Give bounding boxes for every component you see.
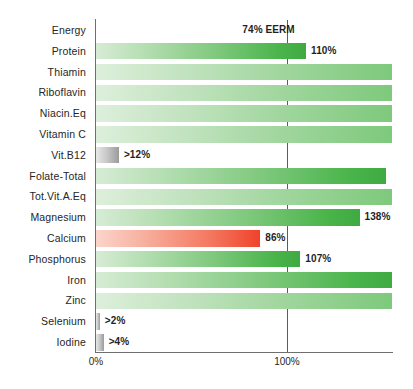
bar-riboflavin[interactable] [96, 85, 392, 101]
y-axis-label-riboflavin: Riboflavin [0, 82, 92, 103]
bar-vit-b12[interactable] [96, 147, 119, 163]
bar-zinc[interactable] [96, 293, 392, 309]
y-axis-label-folate-total: Folate-Total [0, 166, 92, 187]
chart-row: >12% [96, 145, 392, 166]
y-axis-label-vit-b12: Vit.B12 [0, 145, 92, 166]
bar-calcium[interactable] [96, 230, 260, 246]
y-axis-label-phosphorus: Phosphorus [0, 249, 92, 270]
chart-row: 110% [96, 41, 392, 62]
y-axis-category-labels: EnergyProteinThiaminRiboflavinNiacin.EqV… [0, 20, 92, 353]
y-axis-label-niacin-eq: Niacin.Eq [0, 103, 92, 124]
chart-row: 74% EERM [96, 20, 392, 41]
bar-value-label-iodine: >4% [109, 334, 130, 350]
y-axis-label-energy: Energy [0, 20, 92, 41]
y-axis-label-iodine: Iodine [0, 332, 92, 353]
bar-phosphorus[interactable] [96, 251, 300, 267]
chart-row [96, 290, 392, 311]
x-axis-tick-100pct: 100% [274, 356, 300, 367]
chart-row [96, 166, 392, 187]
chart-row: >2% [96, 311, 392, 332]
bar-iodine[interactable] [96, 334, 104, 350]
chart-row [96, 62, 392, 83]
chart-row [96, 186, 392, 207]
bar-value-label-vit-b12: >12% [124, 147, 150, 163]
bar-iron[interactable] [96, 272, 392, 288]
chart-row [96, 270, 392, 291]
chart-row: 86% [96, 228, 392, 249]
bar-protein[interactable] [96, 43, 306, 59]
bar-energy[interactable] [96, 22, 237, 38]
x-axis-tick-0pct: 0% [89, 356, 103, 367]
chart-row [96, 82, 392, 103]
y-axis-label-calcium: Calcium [0, 228, 92, 249]
bar-selenium[interactable] [96, 313, 100, 329]
bar-folate-total[interactable] [96, 168, 386, 184]
chart-row [96, 124, 392, 145]
y-axis-label-tot-vit-a-eq: Tot.Vit.A.Eq [0, 186, 92, 207]
nutrient-adequacy-chart: EnergyProteinThiaminRiboflavinNiacin.EqV… [0, 0, 413, 389]
bar-value-label-calcium: 86% [265, 230, 285, 246]
chart-row: >4% [96, 332, 392, 353]
chart-row: 107% [96, 249, 392, 270]
y-axis-label-selenium: Selenium [0, 311, 92, 332]
y-axis-label-magnesium: Magnesium [0, 207, 92, 228]
y-axis-label-protein: Protein [0, 41, 92, 62]
chart-row: 138% [96, 207, 392, 228]
chart-row [96, 103, 392, 124]
y-axis-label-iron: Iron [0, 270, 92, 291]
plot-area: 74% EERM110%>12%138%86%107%>2%>4% [96, 20, 392, 352]
y-axis-label-zinc: Zinc [0, 290, 92, 311]
bar-magnesium[interactable] [96, 209, 360, 225]
bar-value-label-energy: 74% EERM [242, 22, 295, 38]
y-axis-label-thiamin: Thiamin [0, 62, 92, 83]
bar-vitamin-c[interactable] [96, 126, 392, 142]
bar-value-label-selenium: >2% [105, 313, 126, 329]
bar-tot-vit-a-eq[interactable] [96, 189, 392, 205]
bar-value-label-magnesium: 138% [365, 209, 391, 225]
bar-value-label-phosphorus: 107% [305, 251, 331, 267]
y-axis-label-vitamin-c: Vitamin C [0, 124, 92, 145]
x-axis-tick-labels: 0%100% [0, 356, 413, 374]
bar-thiamin[interactable] [96, 64, 392, 80]
bar-value-label-protein: 110% [311, 43, 336, 59]
bar-niacin-eq[interactable] [96, 105, 392, 121]
